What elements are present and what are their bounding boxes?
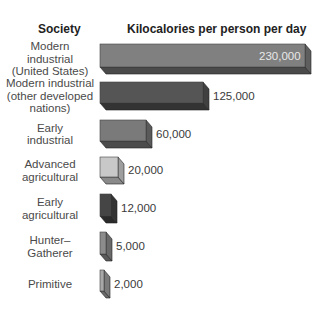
value-label: 125,000 — [213, 90, 255, 102]
value-label: 60,000 — [156, 128, 191, 140]
value-label: 12,000 — [121, 202, 156, 214]
bar-block — [100, 232, 113, 262]
category-label: Early industrial — [0, 122, 100, 147]
value-label: 230,000 — [259, 50, 301, 62]
category-label: Modern industrial (other developed natio… — [0, 77, 100, 115]
value-label: 5,000 — [116, 240, 145, 252]
category-label: Primitive — [0, 278, 100, 291]
value-label: 2,000 — [114, 278, 143, 290]
category-label: Hunter– Gatherer — [0, 234, 100, 259]
bar-block — [100, 157, 125, 185]
kcal-column-header: Kilocalories per person per day — [127, 22, 306, 36]
bar-block — [100, 270, 111, 299]
category-label: Early agricultural — [0, 196, 100, 221]
bar-block — [100, 120, 153, 149]
category-label: Advanced agricultural — [0, 158, 100, 183]
value-label: 20,000 — [128, 164, 163, 176]
category-label: Modern industrial (United States) — [0, 40, 100, 78]
bar-block — [100, 82, 210, 111]
society-column-header: Society — [38, 22, 81, 36]
bar-block — [100, 194, 118, 224]
